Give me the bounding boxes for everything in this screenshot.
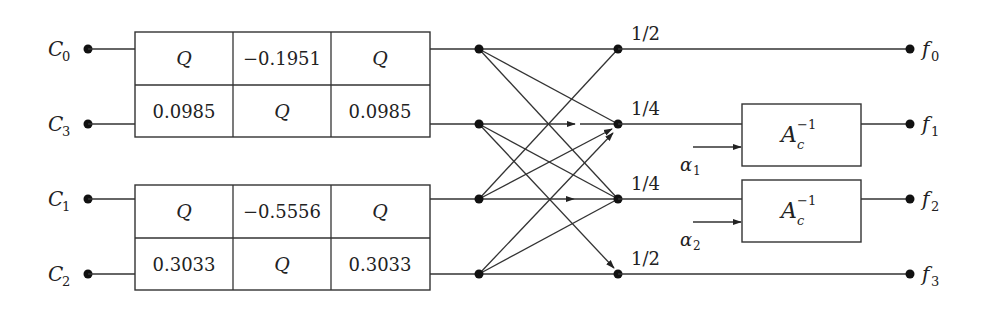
lifting-coefficient: 0.3033 — [153, 254, 216, 275]
lifting-block-2: Q −0.5556 Q 0.3033 Q 0.3033 — [135, 185, 430, 290]
butterfly-node — [475, 45, 484, 54]
output-node — [906, 270, 915, 279]
block-output-wires — [430, 49, 479, 274]
butterfly-edge — [479, 133, 613, 274]
quantizer-cell: Q — [372, 47, 388, 69]
butterfly-edge — [479, 199, 618, 274]
alpha-subscript: 1 — [693, 164, 701, 178]
butterfly-edge — [479, 124, 614, 268]
adaptive-block-label: A — [779, 122, 797, 147]
lifting-coefficient: 0.0985 — [349, 101, 412, 122]
input-subscript: 2 — [62, 274, 70, 289]
adaptive-block-1: A c −1 α 1 — [680, 104, 861, 178]
alpha-label: α — [680, 229, 692, 250]
adaptive-block-frame — [742, 180, 861, 242]
output-subscript: 3 — [931, 274, 939, 289]
lifting-block-1: Q −0.1951 Q 0.0985 Q 0.0985 — [135, 32, 430, 137]
lifting-coefficient: 0.0985 — [153, 101, 216, 122]
lifting-coefficient: −0.1951 — [243, 48, 321, 69]
butterfly-node — [475, 120, 484, 129]
input-c0: C 0 — [48, 37, 135, 64]
lifting-coefficient: 0.3033 — [349, 254, 412, 275]
butterfly-edge — [479, 49, 618, 124]
gain-label: 1/4 — [631, 98, 660, 119]
input-subscript: 1 — [62, 199, 70, 214]
adaptive-block-superscript: −1 — [797, 193, 816, 208]
output-f0: f 0 — [906, 37, 940, 64]
quantizer-cell: Q — [372, 200, 388, 222]
alpha-subscript: 2 — [693, 239, 701, 253]
alpha-label: α — [680, 154, 692, 175]
output-node — [906, 45, 915, 54]
adaptive-block-frame — [742, 104, 861, 166]
butterfly-node — [475, 270, 484, 279]
adaptive-block-2: A c −1 α 2 — [680, 180, 861, 253]
quantizer-cell: Q — [274, 253, 290, 275]
flow-graph-diagram: C 0 C 3 C 1 C 2 Q −0.1951 Q 0.0985 Q 0.0… — [0, 0, 985, 311]
output-subscript: 0 — [931, 49, 939, 64]
butterfly-edge — [479, 129, 612, 199]
output-node — [906, 120, 915, 129]
quantizer-cell: Q — [274, 100, 290, 122]
quantizer-cell: Q — [176, 200, 192, 222]
butterfly-network: 1/2 1/4 1/4 1/2 — [475, 23, 660, 279]
input-c3: C 3 — [48, 112, 135, 139]
adaptive-block-superscript: −1 — [797, 117, 816, 132]
output-f3: f 3 — [906, 262, 940, 289]
gain-label: 1/4 — [631, 173, 660, 194]
adaptive-block-subscript: c — [797, 213, 805, 228]
adaptive-block-subscript: c — [797, 137, 805, 152]
adaptive-block-label: A — [779, 198, 797, 223]
output-subscript: 1 — [931, 124, 939, 139]
input-c1: C 1 — [48, 187, 135, 214]
gain-label: 1/2 — [631, 23, 660, 44]
output-node — [906, 195, 915, 204]
output-subscript: 2 — [931, 199, 939, 214]
input-subscript: 3 — [62, 124, 70, 139]
output-f1: f 1 — [906, 112, 940, 139]
input-c2: C 2 — [48, 262, 135, 289]
gain-label: 1/2 — [631, 248, 660, 269]
lifting-coefficient: −0.5556 — [243, 201, 321, 222]
input-subscript: 0 — [62, 49, 70, 64]
quantizer-cell: Q — [176, 47, 192, 69]
output-f2: f 2 — [906, 187, 940, 214]
butterfly-node — [475, 195, 484, 204]
